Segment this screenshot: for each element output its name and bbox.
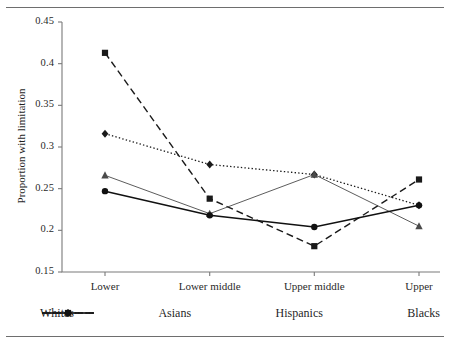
figure-container: Proportion with limitation 0.150.20.250.… [0, 0, 450, 346]
data-point-marker [102, 50, 108, 56]
x-tick-label: Lower [45, 280, 165, 292]
y-tick-label: 0.35 [10, 98, 54, 109]
legend-item-blacks[interactable]: Blacks [407, 306, 440, 321]
x-tick-label: Upper [359, 280, 450, 292]
legend-item-asians[interactable]: Asians [158, 306, 191, 321]
series-line [105, 53, 419, 246]
data-point-marker [416, 176, 422, 182]
legend-swatch-circle-icon [40, 306, 96, 320]
data-point-marker [207, 212, 213, 218]
data-point-marker [416, 202, 422, 208]
y-tick-label: 0.4 [10, 57, 54, 68]
x-tick-label: Upper middle [254, 280, 374, 292]
axis-lines [62, 22, 440, 272]
data-point-marker [102, 188, 108, 194]
legend-label: Blacks [407, 306, 440, 321]
y-tick-label: 0.15 [10, 265, 54, 276]
y-tick-label: 0.3 [10, 140, 54, 151]
y-tick-label: 0.25 [10, 182, 54, 193]
series-asians [102, 50, 422, 250]
series-line [105, 175, 419, 227]
y-tick-label: 0.45 [10, 15, 54, 26]
plot-area [0, 0, 450, 346]
series-line [105, 134, 419, 206]
series-whites [102, 130, 423, 210]
y-tick-label: 0.2 [10, 223, 54, 234]
legend-label: Asians [158, 306, 191, 321]
legend-item-hispanics[interactable]: Hispanics [276, 306, 323, 321]
data-point-marker [102, 130, 109, 138]
data-point-marker [206, 161, 213, 169]
series-line [105, 191, 419, 227]
data-point-marker [101, 171, 108, 178]
data-point-marker [415, 222, 422, 229]
data-point-marker [311, 243, 317, 249]
data-point-marker [311, 224, 317, 230]
legend-label: Hispanics [276, 306, 323, 321]
x-tick-label: Lower middle [150, 280, 270, 292]
chart-legend: WhitesAsiansHispanicsBlacks [40, 306, 440, 321]
data-point-marker [207, 196, 213, 202]
